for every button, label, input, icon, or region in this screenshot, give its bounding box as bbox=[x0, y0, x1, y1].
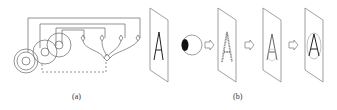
panel-a-diagram bbox=[14, 18, 140, 73]
panel-a-label: (a) bbox=[72, 92, 81, 101]
arrow-1-icon bbox=[205, 40, 214, 50]
stage-1-plane bbox=[218, 8, 236, 82]
panel-a-plane bbox=[150, 8, 168, 82]
stage-2-plane bbox=[263, 8, 281, 82]
arrow-3-icon bbox=[289, 40, 298, 50]
figure-canvas bbox=[0, 0, 337, 110]
eye-icon bbox=[182, 35, 203, 55]
panel-b-label: (b) bbox=[233, 92, 242, 101]
stage-3-plane bbox=[305, 8, 323, 82]
arrow-2-icon bbox=[245, 40, 254, 50]
